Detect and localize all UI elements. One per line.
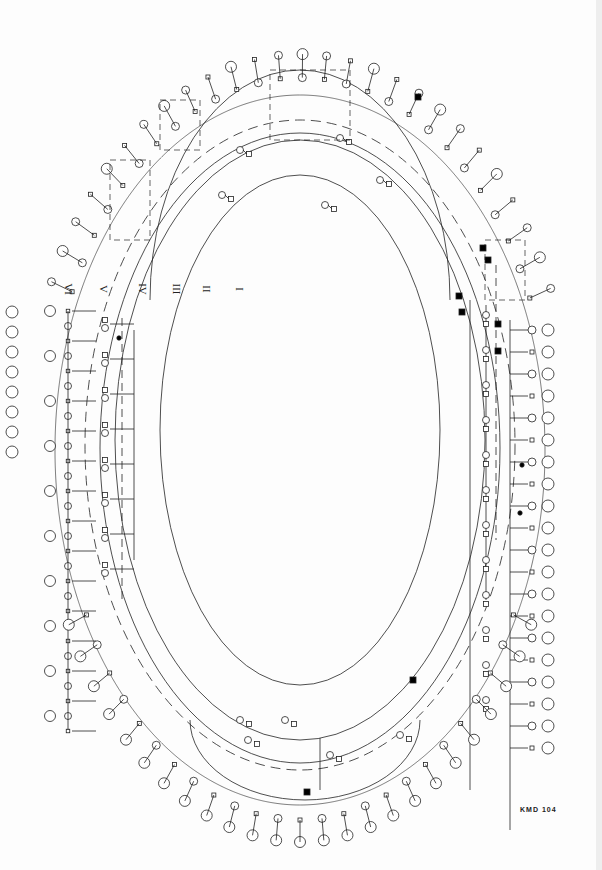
offspring-count-badge (45, 621, 56, 632)
offspring-count-badge (542, 522, 554, 534)
track-generation-III (115, 140, 485, 740)
male-symbol (530, 614, 534, 618)
pedigree-diagram: IIIIIIIVVVI KMD 104 (0, 0, 602, 870)
relationship-line (530, 288, 551, 298)
female-symbol (483, 557, 490, 564)
female-symbol (483, 382, 490, 389)
female-symbol (528, 458, 536, 466)
female-symbol (483, 697, 490, 704)
offspring-count-badge (6, 346, 18, 358)
male-symbol (530, 438, 534, 442)
affected-individual (495, 348, 501, 354)
male-symbol (484, 602, 489, 607)
offspring-count-badge (45, 351, 56, 362)
female-symbol (377, 177, 384, 184)
offspring-count-badge (6, 306, 18, 318)
relationship-line (90, 194, 107, 209)
offspring-count-badge (6, 446, 18, 458)
relationship-line (490, 673, 506, 686)
male-symbol (530, 702, 534, 706)
affected-individual (495, 321, 501, 327)
male-symbol (103, 528, 108, 533)
track-generation-II (160, 175, 440, 685)
relationship-line (429, 110, 441, 130)
generation-label: VI (63, 283, 75, 295)
offspring-count-badge (45, 711, 56, 722)
offspring-count-badge (542, 390, 554, 402)
diagram-identifier: KMD 104 (520, 806, 557, 813)
male-symbol (247, 722, 252, 727)
relationship-line (144, 745, 156, 763)
female-symbol (337, 135, 344, 142)
offspring-count-badge (542, 500, 554, 512)
relationship-line (186, 90, 195, 111)
female-symbol (528, 326, 536, 334)
relationship-line (164, 106, 175, 126)
female-symbol (483, 627, 490, 634)
generation-label: V (98, 285, 110, 293)
relationship-line (447, 129, 460, 148)
female-symbol (237, 717, 244, 724)
female-symbol (528, 370, 536, 378)
male-symbol (530, 394, 534, 398)
female-symbol (102, 570, 109, 577)
affected-individual (480, 245, 486, 251)
male-symbol (103, 353, 108, 358)
offspring-count-badge (542, 368, 554, 380)
female-symbol (322, 202, 329, 209)
affected-individual (456, 293, 462, 299)
offspring-count-badge (542, 478, 554, 490)
female-symbol (102, 360, 109, 367)
female-symbol (483, 347, 490, 354)
female-symbol (397, 732, 404, 739)
relationship-line (125, 145, 140, 163)
generation-label: III (171, 284, 183, 295)
male-symbol (484, 427, 489, 432)
offspring-count-badge (542, 632, 554, 644)
male-symbol (530, 350, 534, 354)
offspring-count-badge (542, 434, 554, 446)
male-symbol (103, 388, 108, 393)
male-symbol (103, 318, 108, 323)
offspring-count-badge (6, 366, 18, 378)
female-symbol (483, 487, 490, 494)
male-symbol (103, 423, 108, 428)
relationship-line (80, 645, 97, 657)
offspring-count-badge (542, 742, 554, 754)
track-generation-I (150, 70, 450, 300)
male-symbol (103, 458, 108, 463)
male-symbol (484, 357, 489, 362)
female-symbol (219, 192, 226, 199)
offspring-count-badge (45, 441, 56, 452)
offspring-count-badge (542, 324, 554, 336)
female-symbol (245, 737, 252, 744)
male-symbol (387, 182, 392, 187)
relationship-line (444, 745, 456, 763)
relationship-line (126, 723, 139, 739)
female-symbol (483, 452, 490, 459)
page-edge (596, 0, 602, 870)
pedigree-canvas (0, 0, 602, 870)
generation-label: I (234, 287, 246, 291)
relationship-line (144, 124, 157, 143)
track-generation-IV (85, 120, 515, 770)
offspring-count-badge (6, 326, 18, 338)
offspring-count-badge (45, 576, 56, 587)
relationship-line (464, 150, 479, 168)
male-symbol (255, 742, 260, 747)
offspring-count-badge (45, 666, 56, 677)
offspring-count-badge (542, 676, 554, 688)
relationship-line (508, 228, 527, 241)
relationship-line (76, 222, 95, 236)
male-symbol (530, 482, 534, 486)
male-symbol (229, 197, 234, 202)
offspring-count-badge (6, 426, 18, 438)
male-symbol (332, 207, 337, 212)
relationship-line (63, 251, 83, 263)
male-symbol (530, 746, 534, 750)
male-symbol (103, 493, 108, 498)
relationship-line (461, 723, 474, 739)
relationship-line (107, 169, 123, 186)
offspring-count-badge (45, 486, 56, 497)
male-symbol (292, 722, 297, 727)
